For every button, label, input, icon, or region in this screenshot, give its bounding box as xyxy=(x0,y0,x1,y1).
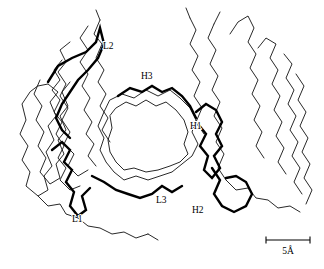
label-l2: L2 xyxy=(103,41,114,51)
figure-background xyxy=(0,0,324,269)
label-h1: H1 xyxy=(190,121,202,131)
label-h3: H3 xyxy=(141,71,153,81)
label-h2: H2 xyxy=(192,205,204,215)
scale-bar-label: 5Å xyxy=(282,245,294,256)
label-l3: L3 xyxy=(156,195,167,205)
label-l1: L1 xyxy=(72,214,83,224)
backbone-trace-svg: L2H3H1L3H2L1 5Å xyxy=(0,0,324,269)
protein-structure-figure: L2H3H1L3H2L1 5Å xyxy=(0,0,324,269)
